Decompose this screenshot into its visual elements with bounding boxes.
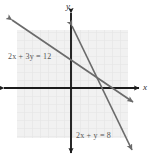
coordinate-graph-figure: 2x + 3y = 12 2x + y = 8 x y	[0, 0, 153, 160]
x-axis-label: x	[143, 82, 147, 92]
y-axis-label: y	[66, 1, 70, 11]
equation-label-1: 2x + 3y = 12	[8, 52, 51, 61]
grid-region	[17, 30, 128, 138]
equation-label-2: 2x + y = 8	[76, 131, 111, 140]
